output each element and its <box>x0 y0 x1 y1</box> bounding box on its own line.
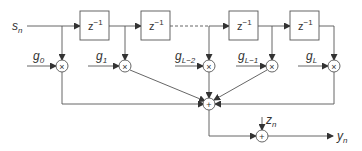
product-line-0 <box>62 72 204 104</box>
output-label: yn <box>336 129 348 145</box>
tapped-delay-line-diagram: z−1 z−1 z−1 z−1 × × × × × + + sn g0 g1 g… <box>0 0 362 151</box>
gain-label-0: g0 <box>33 49 45 65</box>
noise-label: zn <box>265 113 277 129</box>
multiply-icon: × <box>122 62 127 72</box>
gain-label-L-2: gL−2 <box>175 49 196 65</box>
multiply-icon: × <box>59 62 64 72</box>
multiply-icon: × <box>206 62 211 72</box>
tap-line-L <box>319 26 334 60</box>
gain-label-1: g1 <box>96 49 107 65</box>
gain-label-L-1: gL−1 <box>238 49 258 65</box>
gain-label-L: gL <box>306 49 317 65</box>
multiply-icon: × <box>331 62 336 72</box>
input-label: sn <box>12 19 23 35</box>
plus-icon: + <box>259 132 264 142</box>
sum-line <box>209 110 256 136</box>
product-line-1 <box>130 70 205 101</box>
multiply-icon: × <box>269 62 274 72</box>
product-line-L <box>215 72 334 104</box>
product-line-L-1 <box>214 70 267 100</box>
plus-icon: + <box>206 100 211 110</box>
